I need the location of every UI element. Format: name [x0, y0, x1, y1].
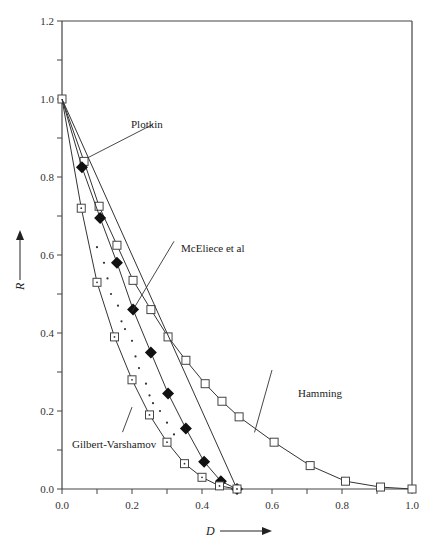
diamond-marker-mceliece-et-al — [111, 257, 123, 269]
dot-marker — [124, 328, 126, 330]
y-tick-label: 1.2 — [40, 15, 54, 27]
series-layer — [58, 95, 416, 495]
square-marker-hamming — [270, 438, 278, 446]
x-tick-label: 0.8 — [335, 499, 349, 511]
x-tick-label: 0.2 — [125, 499, 139, 511]
y-arrow-icon — [16, 230, 24, 240]
square-marker-hamming — [218, 397, 226, 405]
dot-marker — [159, 410, 161, 412]
dot-marker — [138, 367, 140, 369]
annotation-plotkin: Plotkin — [131, 118, 163, 130]
dot-marker — [152, 402, 154, 404]
square-marker-hamming — [129, 276, 137, 284]
square-marker-hamming — [164, 333, 172, 341]
annotation-mceliece: McEliece et al — [181, 242, 245, 254]
dot-marker — [173, 433, 175, 435]
square-marker-hamming — [235, 413, 243, 421]
dot-marker — [117, 305, 119, 307]
x-tick-label: 0.6 — [265, 499, 279, 511]
annotation-hamming: Hamming — [298, 387, 342, 399]
annotations-layer: Plotkin McEliece et al Hamming Gilbert-V… — [72, 118, 342, 450]
diamond-marker-mceliece-et-al — [180, 423, 192, 435]
diamond-marker-mceliece-et-al — [162, 387, 174, 399]
axes: 0.00.20.40.60.81.00.00.20.40.60.81.01.2 — [16, 15, 419, 535]
marker-center-dot — [131, 379, 133, 381]
dot-marker — [134, 355, 136, 357]
diamond-marker-mceliece-et-al — [94, 212, 106, 224]
dot-marker — [110, 293, 112, 295]
y-tick-label: 0.2 — [40, 405, 54, 417]
x-arrow-icon — [262, 527, 272, 535]
square-marker-hamming — [408, 485, 416, 493]
marker-center-dot — [166, 441, 168, 443]
annotation-gilbert-varshamov: Gilbert-Varshamov — [72, 438, 157, 450]
square-marker-hamming — [147, 306, 155, 314]
marker-center-dot — [149, 414, 151, 416]
marker-center-dot — [219, 485, 221, 487]
marker-center-dot — [80, 207, 82, 209]
series-line-hamming — [62, 99, 412, 489]
marker-center-dot — [96, 281, 98, 283]
marker-center-dot — [236, 488, 238, 490]
leader-line-hamming — [255, 370, 273, 432]
y-tick-label: 1.0 — [40, 93, 54, 105]
x-tick-label: 0.4 — [195, 499, 209, 511]
square-marker-hamming — [201, 380, 209, 388]
square-marker-hamming — [113, 241, 121, 249]
y-tick-label: 0.6 — [40, 249, 54, 261]
x-tick-label: 0.0 — [55, 499, 69, 511]
y-axis-title: R — [13, 282, 27, 291]
square-marker-hamming — [377, 483, 385, 491]
square-marker-hamming — [342, 477, 350, 485]
dot-marker — [145, 383, 147, 385]
y-tick-label: 0.4 — [40, 327, 54, 339]
dot-marker — [96, 246, 98, 248]
marker-center-dot — [201, 476, 203, 478]
bounds-chart: 0.00.20.40.60.81.00.00.20.40.60.81.01.2 … — [0, 0, 434, 548]
marker-center-dot — [184, 463, 186, 465]
y-tick-label: 0.0 — [40, 483, 54, 495]
y-tick-label: 0.8 — [40, 171, 54, 183]
square-marker-hamming — [306, 462, 314, 470]
x-tick-label: 1.0 — [405, 499, 419, 511]
dot-marker — [131, 340, 133, 342]
square-marker-hamming — [182, 356, 190, 364]
leader-line-gilbert-varshamov — [123, 407, 133, 432]
marker-center-dot — [114, 336, 116, 338]
dot-marker — [166, 422, 168, 424]
dot-marker — [106, 277, 108, 279]
dot-marker — [103, 262, 105, 264]
dot-marker — [148, 394, 150, 396]
dot-marker — [120, 320, 122, 322]
x-axis-title: D — [205, 524, 215, 538]
diamond-marker-mceliece-et-al — [145, 347, 157, 359]
